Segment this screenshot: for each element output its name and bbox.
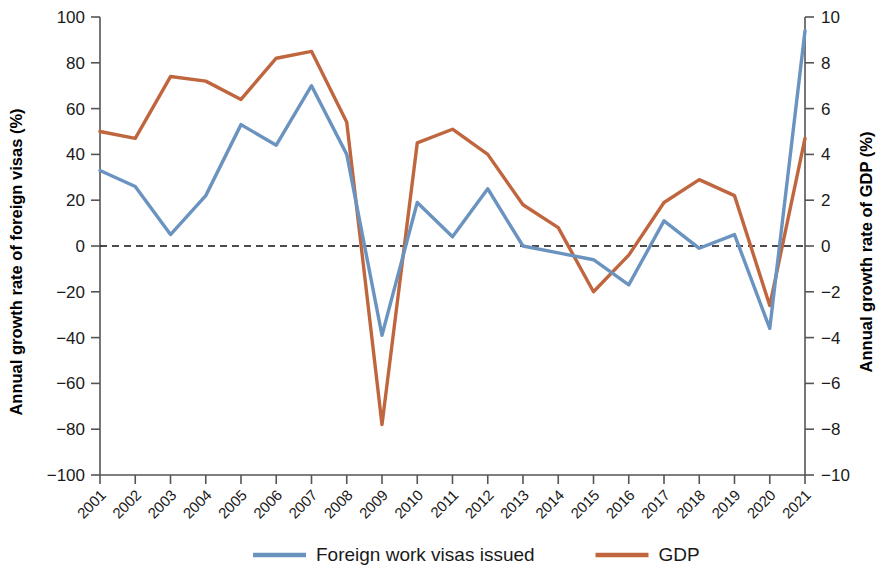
y-axis-left-tick-label: −100 (47, 466, 85, 485)
y-axis-right-tick-label: 10 (821, 8, 840, 27)
y-axis-left-tick-label: 20 (66, 191, 85, 210)
y-axis-right-tick-label: −6 (821, 374, 840, 393)
y-axis-right-tick-label: 2 (821, 191, 830, 210)
y-axis-left-tick-label: 40 (66, 145, 85, 164)
y-axis-right-tick-label: −8 (821, 420, 840, 439)
line-chart: Annual growth rate of foreign visas (%) … (0, 0, 887, 579)
y-axis-right-tick-label: −2 (821, 283, 840, 302)
y-axis-right-tick-label: −4 (821, 329, 840, 348)
legend-label: GDP (659, 544, 700, 565)
y-axis-left-tick-label: −80 (56, 420, 85, 439)
y-axis-left-tick-label: 80 (66, 54, 85, 73)
y-axis-right-tick-label: 8 (821, 54, 830, 73)
y-axis-left-tick-label: −60 (56, 374, 85, 393)
y-axis-right-tick-label: −10 (821, 466, 850, 485)
y-axis-left-tick-label: 60 (66, 100, 85, 119)
chart-figure: Annual growth rate of foreign visas (%) … (0, 0, 887, 579)
y-axis-left-title: Annual growth rate of foreign visas (%) (7, 108, 25, 415)
y-axis-right-tick-label: 0 (821, 237, 830, 256)
y-axis-left-tick-label: −40 (56, 329, 85, 348)
y-axis-left-tick-label: 100 (57, 8, 85, 27)
y-axis-right-title: Annual growth rate of GDP (%) (857, 132, 875, 373)
y-axis-right-tick-label: 6 (821, 100, 830, 119)
legend-label: Foreign work visas issued (316, 544, 535, 565)
y-axis-left-tick-label: −20 (56, 283, 85, 302)
y-axis-right-tick-label: 4 (821, 145, 830, 164)
y-axis-left-tick-label: 0 (76, 237, 85, 256)
